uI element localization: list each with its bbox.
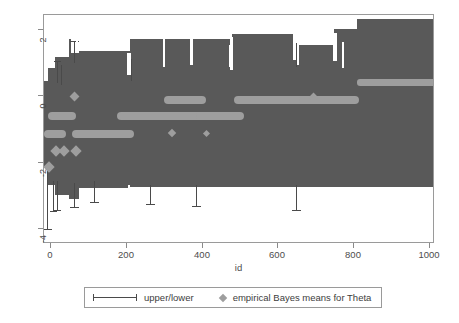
error-bar-cap: [50, 211, 57, 212]
error-bar-whisker: [196, 185, 197, 207]
x-tick: [50, 243, 51, 248]
error-bar-whisker: [150, 185, 151, 205]
error-bar-whisker: [74, 183, 75, 208]
block-slit: [342, 42, 344, 68]
legend-label-upper-lower: upper/lower: [144, 292, 194, 303]
error-bar-cap: [192, 206, 201, 207]
error-bar-whisker: [57, 181, 58, 211]
eb-mean-band: [196, 112, 244, 120]
x-tick-label: 1000: [409, 249, 449, 260]
eb-mean-band: [357, 79, 434, 86]
x-tick: [277, 243, 278, 248]
error-bar-whisker: [296, 185, 297, 211]
x-tick-label: 0: [30, 249, 70, 260]
error-bar-whisker: [57, 61, 58, 83]
error-bar-whisker: [74, 41, 75, 63]
y-tick-label: -2: [38, 162, 48, 184]
legend: upper/lower empirical Bayes means for Th…: [84, 287, 382, 308]
error-bar-cap: [54, 210, 61, 211]
eb-mean-band: [44, 130, 66, 138]
error-bar-whisker: [131, 59, 132, 81]
block-slit: [229, 45, 231, 67]
x-tick: [126, 243, 127, 248]
eb-mean-band: [48, 112, 76, 120]
plot-area: [43, 14, 434, 243]
x-tick-label: 800: [333, 249, 373, 260]
x-axis-title: id: [43, 262, 434, 273]
error-bar-whisker: [61, 65, 62, 85]
y-tick-label: 2: [38, 29, 48, 51]
error-bar-cap: [292, 210, 301, 211]
x-tick: [202, 243, 203, 248]
error-bar-cap: [90, 202, 99, 203]
block-gap: [190, 39, 193, 65]
error-bar-icon: [93, 293, 137, 302]
eb-mean-band: [164, 96, 206, 104]
x-tick-label: 400: [182, 249, 222, 260]
y-tick-label: 0: [38, 95, 48, 117]
x-tick: [353, 243, 354, 248]
chart-figure: 2 0 -2 -4 0 200 400 600 800 1000 id uppe…: [0, 0, 459, 323]
error-bar-cap: [70, 207, 79, 208]
diamond-icon: [218, 293, 226, 301]
error-bar-whisker: [53, 181, 54, 212]
legend-label-eb-means: empirical Bayes means for Theta: [233, 292, 372, 303]
x-tick: [429, 243, 430, 248]
error-bar-whisker: [94, 181, 95, 203]
block-gap: [333, 33, 337, 61]
block-slit: [76, 29, 78, 51]
eb-mean-band: [72, 130, 134, 138]
x-axis: 0 200 400 600 800 1000 id: [43, 243, 434, 267]
block-slit: [297, 45, 299, 65]
error-bar-cap: [146, 204, 155, 205]
block-slit: [163, 39, 165, 67]
error-bar-cap: [54, 61, 61, 62]
x-tick-label: 200: [106, 249, 146, 260]
x-tick-label: 600: [257, 249, 297, 260]
